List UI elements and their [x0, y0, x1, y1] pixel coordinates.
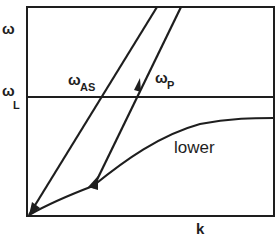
lower-branch-label: lower — [174, 138, 215, 157]
omega-l-subscript: L — [13, 99, 20, 111]
y-axis-label: ω — [2, 20, 15, 37]
omega-l-label: ω — [2, 82, 15, 99]
omega-p-subscript: P — [167, 79, 174, 91]
omega-p-arrow-icon — [134, 78, 141, 92]
x-axis-label: k — [196, 220, 205, 237]
omega-as-subscript: AS — [80, 81, 95, 93]
plot-frame — [27, 7, 274, 216]
lower-branch-curve — [29, 118, 274, 215]
dispersion-diagram: ω ω L ω AS ω P lower k — [0, 0, 280, 242]
